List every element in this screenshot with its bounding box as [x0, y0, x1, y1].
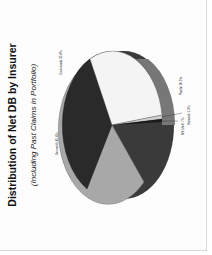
label-pacific: Pacific 20.3%	[179, 76, 183, 95]
label-hancock: Hancock 1.3%	[187, 105, 191, 125]
label-nylife: NY Life 0.7%	[181, 117, 185, 135]
pie-chart: Genworth 45.4% Crossroads 32.4% Pacific …	[0, 0, 212, 255]
label-crossroads: Crossroads 32.4%	[59, 50, 63, 75]
rotated-slide: Distribution of Net DB by Insurer (Inclu…	[0, 0, 212, 255]
label-genworth: Genworth 45.4%	[55, 132, 59, 155]
slide-page: Distribution of Net DB by Insurer (Inclu…	[0, 0, 207, 251]
